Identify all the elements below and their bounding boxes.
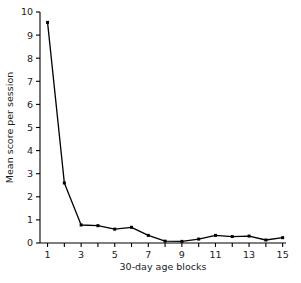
y-tick-label-8: 8: [27, 53, 33, 64]
data-point-6: [130, 226, 133, 229]
x-tick-label-3: 3: [78, 249, 84, 260]
x-axis-title: 30-day age blocks: [120, 261, 207, 272]
line-chart-plot: 0123456789101357911131530-day age blocks…: [0, 0, 301, 283]
data-point-10: [197, 238, 200, 241]
x-tick-label-9: 9: [179, 249, 185, 260]
data-point-8: [164, 240, 167, 243]
y-tick-label-5: 5: [27, 122, 33, 133]
y-tick-label-2: 2: [27, 191, 33, 202]
y-tick-label-3: 3: [27, 168, 33, 179]
data-point-3: [80, 223, 83, 226]
y-tick-label-4: 4: [27, 145, 33, 156]
chart-figure: 0123456789101357911131530-day age blocks…: [0, 0, 301, 283]
data-point-12: [231, 235, 234, 238]
data-line: [48, 22, 283, 241]
y-tick-label-7: 7: [27, 76, 33, 87]
y-tick-label-6: 6: [27, 99, 33, 110]
y-axis-title: Mean score per session: [4, 72, 15, 183]
data-point-13: [248, 235, 251, 238]
y-tick-label-0: 0: [27, 237, 33, 248]
x-tick-label-11: 11: [209, 249, 221, 260]
data-point-1: [46, 21, 49, 24]
data-point-2: [63, 181, 66, 184]
y-tick-label-10: 10: [21, 6, 33, 17]
data-point-7: [147, 234, 150, 237]
x-tick-label-1: 1: [45, 249, 51, 260]
x-tick-label-5: 5: [112, 249, 118, 260]
x-tick-label-7: 7: [145, 249, 151, 260]
y-tick-label-1: 1: [27, 214, 33, 225]
data-point-15: [281, 236, 284, 239]
data-point-9: [180, 240, 183, 243]
x-tick-label-15: 15: [277, 249, 289, 260]
data-point-11: [214, 234, 217, 237]
y-tick-label-9: 9: [27, 30, 33, 41]
data-point-5: [113, 228, 116, 231]
data-point-4: [96, 224, 99, 227]
x-tick-label-13: 13: [243, 249, 255, 260]
data-point-14: [264, 239, 267, 242]
